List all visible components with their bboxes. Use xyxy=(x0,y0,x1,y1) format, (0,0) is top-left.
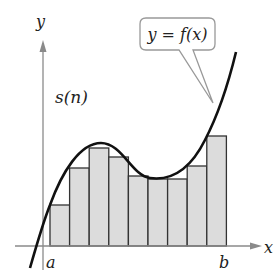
y-axis-label: y xyxy=(35,12,46,31)
right-bound-label: b xyxy=(219,253,229,272)
riemann-rectangle xyxy=(187,166,207,246)
riemann-rectangle xyxy=(128,176,148,246)
riemann-rectangle xyxy=(70,168,90,246)
y-axis-arrow-icon xyxy=(40,40,47,52)
riemann-rectangle xyxy=(89,148,109,246)
x-axis-arrow-icon xyxy=(250,243,262,250)
riemann-rectangle xyxy=(50,205,70,246)
riemann-rectangle xyxy=(148,179,168,246)
rectangles-group xyxy=(50,136,226,246)
riemann-rectangle xyxy=(207,136,227,246)
x-axis-label: x xyxy=(264,238,273,257)
riemann-rectangle xyxy=(109,157,129,246)
riemann-rectangle xyxy=(168,179,188,246)
riemann-sum-diagram: y = f(x) y x s(n) a b xyxy=(0,0,275,273)
callout-label: y = f(x) xyxy=(146,25,207,44)
sum-label: s(n) xyxy=(55,87,88,107)
left-bound-label: a xyxy=(46,253,56,272)
